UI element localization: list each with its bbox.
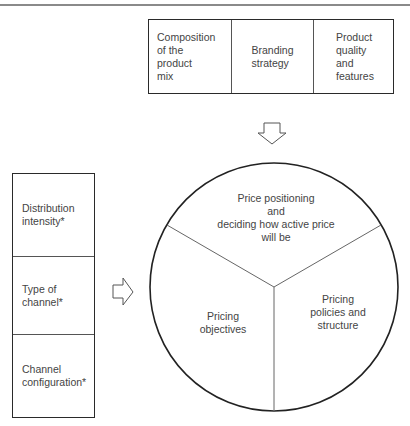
arrow-down-icon <box>258 123 286 144</box>
segment-pricing-objectives: Pricing objectives <box>186 310 260 336</box>
segment-pricing-policies-and-structure: Pricing policies and structure <box>296 293 380 332</box>
segment-price-positioning: Price positioning and deciding how activ… <box>196 192 356 244</box>
arrow-right-icon <box>113 278 133 305</box>
